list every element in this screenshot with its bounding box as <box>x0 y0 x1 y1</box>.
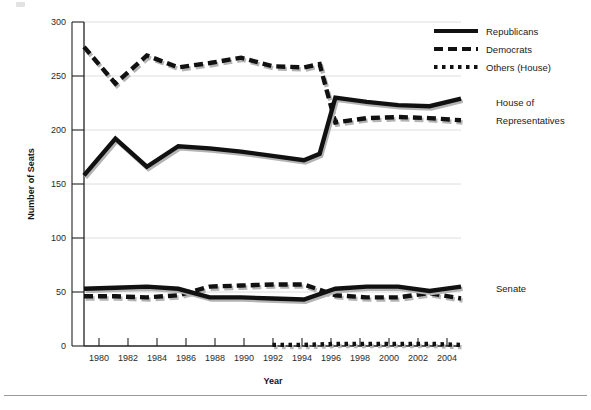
x-tick-labels: 1980 1982 1984 1986 1988 1990 1992 1994 … <box>89 353 457 363</box>
chart-legend: Republicans Democrats Others (House) <box>434 26 551 73</box>
legend-label-democrats: Democrats <box>486 44 532 55</box>
x-tick-label-1982: 1982 <box>118 353 138 363</box>
y-tick-label-250: 250 <box>51 71 66 81</box>
annotation-house: House of Representatives <box>496 97 565 126</box>
x-tick-label-1990: 1990 <box>234 353 254 363</box>
x-tick-label-2000: 2000 <box>379 353 399 363</box>
x-tick-label-1994: 1994 <box>292 353 312 363</box>
annotation-house-line1: House of <box>496 97 534 108</box>
seats-by-party-line-chart: 300 250 200 150 100 50 0 Number of Seats <box>0 0 591 410</box>
y-tick-label-200: 200 <box>51 125 66 135</box>
line-house-democrats-stroke <box>84 47 461 123</box>
x-tick-label-1992: 1992 <box>263 353 283 363</box>
y-tick-label-300: 300 <box>51 17 66 27</box>
y-tick-marks <box>72 76 84 292</box>
footer-divider <box>4 395 587 396</box>
annotation-house-line2: Representatives <box>496 115 565 126</box>
annotation-senate: Senate <box>496 283 526 294</box>
line-house-others-stroke <box>273 344 462 345</box>
line-house-democrats-shadow <box>86 49 463 125</box>
line-house-republicans-shadow <box>86 100 463 178</box>
y-tick-label-100: 100 <box>51 233 66 243</box>
x-tick-label-1986: 1986 <box>176 353 196 363</box>
y-axis-title: Number of Seats <box>26 148 36 220</box>
chart-figure: 300 250 200 150 100 50 0 Number of Seats <box>0 0 591 410</box>
x-tick-label-1988: 1988 <box>205 353 225 363</box>
y-tick-labels: 300 250 200 150 100 50 0 <box>51 17 66 351</box>
data-series-layer <box>84 47 463 347</box>
x-tick-label-1998: 1998 <box>350 353 370 363</box>
line-house-republicans <box>84 98 463 178</box>
x-tick-label-1980: 1980 <box>89 353 109 363</box>
x-tick-label-2004: 2004 <box>437 353 457 363</box>
legend-label-others: Others (House) <box>486 62 551 73</box>
y-tick-label-50: 50 <box>56 287 66 297</box>
x-tick-label-2002: 2002 <box>408 353 428 363</box>
y-tick-label-150: 150 <box>51 179 66 189</box>
line-house-democrats <box>84 47 463 125</box>
legend-label-republicans: Republicans <box>486 26 539 37</box>
x-tick-label-1996: 1996 <box>321 353 341 363</box>
y-tick-label-0: 0 <box>61 341 66 351</box>
x-axis-title: Year <box>263 376 283 386</box>
x-tick-label-1984: 1984 <box>147 353 167 363</box>
